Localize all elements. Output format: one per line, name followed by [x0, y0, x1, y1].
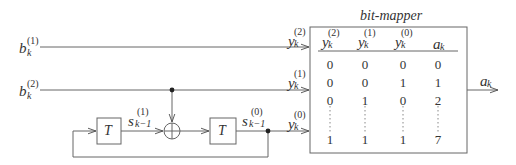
cell: 0: [355, 75, 375, 91]
cell: 1: [355, 93, 375, 109]
cell: 1: [320, 132, 340, 148]
state-label-s0: s (0) k−1: [242, 112, 248, 130]
cell: 1: [355, 132, 375, 148]
input-label-b1: b (1) k: [19, 39, 27, 57]
cell: 7: [428, 132, 448, 148]
delay-label-2: T: [218, 123, 226, 139]
cell: 0: [320, 75, 340, 91]
cell: 0: [320, 93, 340, 109]
output-label-ak: a k: [480, 72, 488, 90]
bit-mapper-title: bit-mapper: [360, 8, 422, 24]
table-header-y0: y (0) k: [395, 33, 402, 51]
junction-dot-2: [266, 129, 271, 134]
input-label-b2: b (2) k: [19, 82, 27, 100]
cell: 1: [393, 132, 413, 148]
delay-label-1: T: [104, 123, 112, 139]
cell: 1: [428, 75, 448, 91]
table-header-y2: y (2) k: [322, 33, 329, 51]
table-header-y1: y (1) k: [358, 33, 365, 51]
cell: 0: [428, 57, 448, 73]
cell: 0: [393, 93, 413, 109]
cell: 0: [393, 57, 413, 73]
cell: 1: [393, 75, 413, 91]
cell: 2: [428, 93, 448, 109]
table-header-ak: a k: [433, 35, 441, 53]
mapper-input-y2: y (2) k: [288, 32, 295, 50]
state-label-s1: s (1) k−1: [128, 112, 134, 130]
junction-dot-1: [170, 88, 175, 93]
mapper-input-y0: y (0) k: [288, 115, 295, 133]
cell: 0: [320, 57, 340, 73]
mapper-input-y1: y (1) k: [288, 74, 295, 92]
cell: 0: [355, 57, 375, 73]
